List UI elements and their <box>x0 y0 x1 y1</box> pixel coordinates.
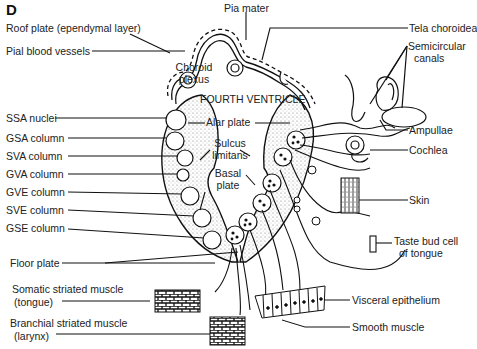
label-pial-vessels: Pial blood vessels <box>6 45 90 57</box>
label-sva: SVA column <box>6 150 62 162</box>
label-visceral-epithelium: Visceral epithelium <box>352 294 440 306</box>
label-semicircular: Semicircular <box>408 40 466 52</box>
label-taste-bud-sub: of tongue <box>399 247 443 259</box>
label-ssa: SSA nuclei <box>6 112 57 124</box>
label-taste-bud: Taste bud cell <box>394 235 458 247</box>
striated-muscles <box>155 290 245 345</box>
label-smooth-muscle: Smooth muscle <box>352 321 424 333</box>
label-choroid: Choroid <box>172 61 216 73</box>
label-semicircular-sub: canals <box>414 52 444 64</box>
visceral-epithelium <box>255 286 350 327</box>
label-sulcus-sub: limitans <box>208 149 252 161</box>
label-branchial-muscle: Branchial striated muscle <box>10 317 127 329</box>
label-alar-plate: Alar plate <box>206 116 250 128</box>
label-ampullae: Ampullae <box>409 124 453 136</box>
floor-plate-leader <box>105 252 238 263</box>
label-gva: GVA column <box>6 168 64 180</box>
panel-letter: D <box>6 1 17 18</box>
label-tela-choroidea: Tela choroidea <box>409 22 477 34</box>
label-branchial-muscle-sub: (larynx) <box>14 330 49 342</box>
label-gve: GVE column <box>6 186 65 198</box>
skin-block <box>294 166 408 225</box>
taste-bud <box>370 236 392 252</box>
label-gsa: GSA column <box>6 132 64 144</box>
label-gse: GSE column <box>6 222 65 234</box>
label-basal-sub: plate <box>210 179 246 191</box>
label-sulcus: Sulcus <box>208 137 252 149</box>
label-sve: SVE column <box>6 204 64 216</box>
label-somatic-muscle: Somatic striated muscle <box>12 283 123 295</box>
label-skin: Skin <box>409 194 429 206</box>
label-basal: Basal <box>210 167 246 179</box>
label-somatic-muscle-sub: (tongue) <box>14 296 53 308</box>
label-roof-plate: Roof plate (ependymal layer) <box>6 22 141 34</box>
label-pia-mater: Pia mater <box>224 2 269 14</box>
label-fourth-ventricle: FOURTH VENTRICLE <box>200 93 305 105</box>
label-floor-plate: Floor plate <box>10 257 60 269</box>
label-choroid-sub: plexus <box>172 73 216 85</box>
label-cochlea: Cochlea <box>409 144 448 156</box>
